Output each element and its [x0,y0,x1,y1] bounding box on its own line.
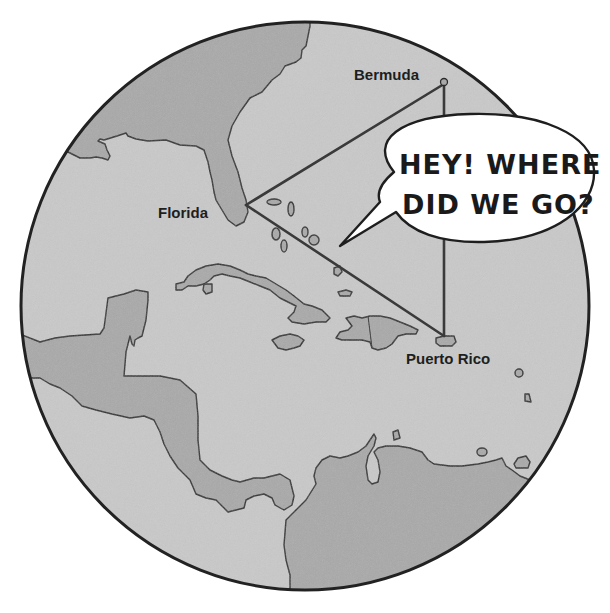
island [515,369,523,377]
island [309,235,319,245]
island [302,227,308,237]
speech-bubble-line-2: DID WE GO? [402,189,595,220]
speech-bubble-line-1: HEY! WHERE [399,149,601,180]
island [281,240,287,252]
label-florida: Florida [158,204,209,221]
label-puerto-rico: Puerto Rico [406,350,490,367]
bermuda-triangle-map: Bermuda Florida Puerto Rico HEY! WHERE D… [0,0,610,613]
island [393,430,400,440]
island [272,228,280,240]
bermuda-marker [441,79,448,86]
island [338,290,352,296]
island [477,448,487,456]
island [288,202,294,216]
island [267,199,281,205]
land-isle-of-youth [203,284,212,294]
globe [0,20,610,613]
land-puerto-rico [436,336,456,346]
label-bermuda: Bermuda [354,66,420,83]
